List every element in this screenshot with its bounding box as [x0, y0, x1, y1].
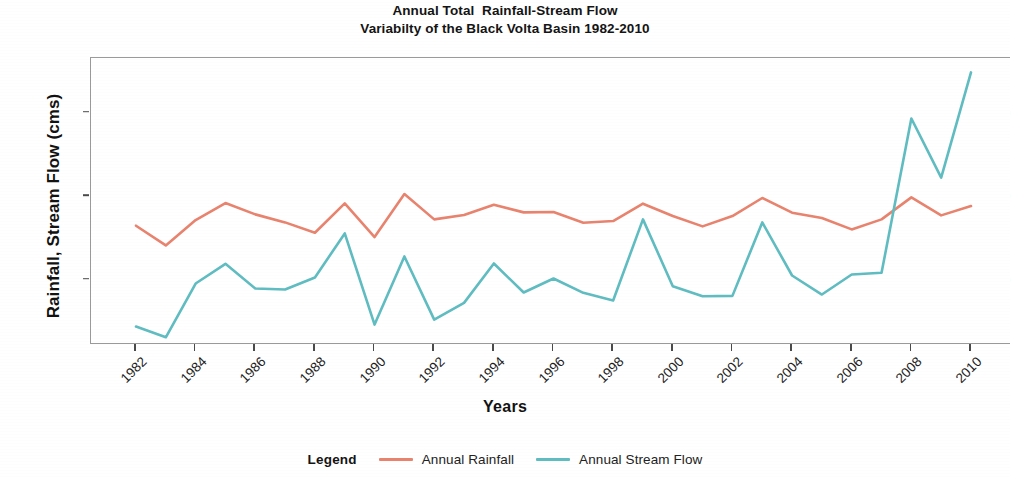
x-tick-mark [611, 344, 613, 351]
x-tick-mark [790, 344, 792, 351]
legend-title: Legend [308, 452, 357, 467]
plot-lines [91, 58, 1011, 345]
x-tick-label: 1992 [406, 354, 448, 396]
y-tick-mark [83, 194, 89, 196]
x-tick-mark [313, 344, 315, 351]
x-tick-label: 2000 [645, 354, 687, 396]
x-tick-label: 2010 [943, 354, 985, 396]
x-tick-mark [850, 344, 852, 351]
x-tick-label: 1986 [227, 354, 269, 396]
x-tick-label: 2008 [883, 354, 925, 396]
x-tick-label: 1994 [466, 354, 508, 396]
legend-line-swatch [536, 458, 570, 461]
y-axis-title: Rainfall, Stream Flow (cms) [44, 56, 64, 356]
legend-line-swatch [379, 458, 413, 461]
chart-title-block: Annual Total Rainfall-Stream Flow Variab… [0, 2, 1010, 38]
x-tick-mark [432, 344, 434, 351]
x-tick-mark [969, 344, 971, 351]
x-tick-label: 1982 [108, 354, 150, 396]
x-tick-mark [253, 344, 255, 351]
x-tick-label: 1988 [287, 354, 329, 396]
x-tick-mark [671, 344, 673, 351]
x-tick-label: 2002 [704, 354, 746, 396]
x-tick-label: 1990 [346, 354, 388, 396]
x-tick-mark [552, 344, 554, 351]
x-tick-mark [910, 344, 912, 351]
x-tick-mark [492, 344, 494, 351]
x-axis-title: Years [0, 398, 1010, 416]
x-tick-mark [373, 344, 375, 351]
x-tick-mark [194, 344, 196, 351]
x-tick-label: 1998 [585, 354, 627, 396]
series-line-annual-stream-flow [136, 72, 971, 337]
x-tick-label: 2004 [764, 354, 806, 396]
legend-entry[interactable]: Annual Rainfall [379, 452, 514, 467]
x-tick-mark [731, 344, 733, 351]
legend-entry[interactable]: Annual Stream Flow [536, 452, 702, 467]
legend-label: Annual Stream Flow [579, 452, 702, 467]
plot-panel [90, 57, 1010, 344]
chart-title: Annual Total Rainfall-Stream Flow [0, 2, 1010, 20]
x-tick-label: 2006 [824, 354, 866, 396]
chart-subtitle: Variabilty of the Black Volta Basin 1982… [0, 20, 1010, 38]
legend-label: Annual Rainfall [422, 452, 514, 467]
x-tick-label: 1984 [168, 354, 210, 396]
chart-legend: Legend Annual RainfallAnnual Stream Flow [0, 452, 1010, 467]
x-tick-mark [134, 344, 136, 351]
y-tick-mark [83, 278, 89, 280]
series-line-annual-rainfall [136, 194, 971, 245]
y-tick-mark [83, 111, 89, 113]
x-tick-label: 1996 [525, 354, 567, 396]
